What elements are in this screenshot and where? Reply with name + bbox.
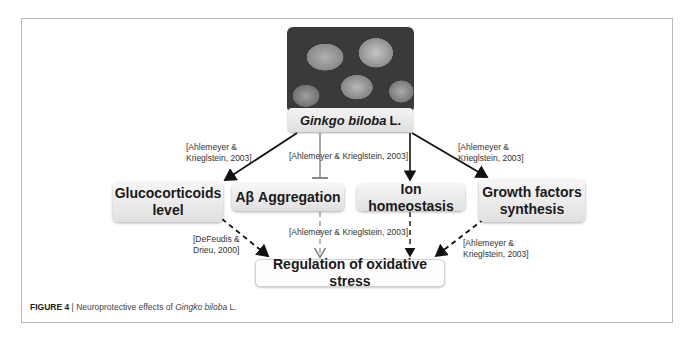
source-label-suffix: L. [390,113,402,128]
citation-center-top: [Ahlemeyer & Krieglstein, 2003] [289,151,408,162]
node-ion-homeostasis: Ion homeostasis [357,184,465,211]
ginkgo-leaves-photo [287,27,414,113]
citation-center-bottom: [Ahlemeyer & Krieglstein, 2003] [289,227,408,238]
citation-gluco-to-outcome: [DeFeudis & Drieu, 2000] [193,234,240,256]
node-glucocorticoids: Glucocorticoids level [113,182,223,222]
figure-caption: FIGURE 4 | Neuroprotective effects of Gi… [30,302,237,312]
source-label-italic: Ginkgo biloba [300,113,387,128]
node-growth-factors: Growth factors synthesis [479,180,585,222]
node-regulation-oxidative-stress: Regulation of oxidative stress [255,259,445,287]
caption-label: FIGURE 4 [30,302,69,312]
citation-growth-to-outcome: [Ahlemeyer & Krieglstein, 2003] [463,238,529,260]
node-abeta-aggregation: Aβ Aggregation [232,184,344,211]
source-node-ginkgo: Ginkgo biloba L. [288,108,413,132]
citation-to-glucocorticoids: [Ahlemeyer & Krieglstein, 2003] [186,142,252,164]
citation-to-growth: [Ahlemeyer & Krieglstein, 2003] [458,142,524,164]
